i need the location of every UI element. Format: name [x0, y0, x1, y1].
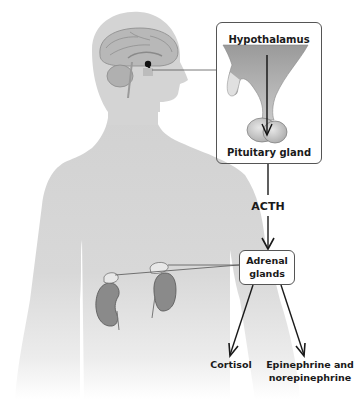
adrenal-glands-box: Adrenal glands: [239, 250, 295, 285]
adrenal-label-line1: Adrenal: [240, 255, 294, 266]
diagram-stage: Hypothalamus Pituitary gland ACTH Adrena…: [0, 0, 363, 399]
epinephrine-label-line1: Epinephrine and: [260, 359, 360, 370]
epinephrine-label-line2: norepinephrine: [260, 372, 360, 383]
pituitary-label: Pituitary gland: [216, 147, 322, 158]
cortisol-label: Cortisol: [206, 359, 256, 370]
hypothalamus-label: Hypothalamus: [216, 34, 322, 45]
adrenal-label-line2: glands: [240, 268, 294, 279]
acth-label: ACTH: [243, 200, 293, 213]
